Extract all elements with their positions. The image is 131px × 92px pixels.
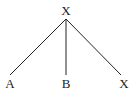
edge-root-to-a: [10, 19, 66, 75]
node-root: X: [61, 3, 71, 18]
tree-diagram: X A B X: [0, 0, 131, 92]
node-child-a: A: [5, 76, 15, 91]
edge-root-to-x: [66, 19, 121, 75]
node-child-b: B: [62, 76, 71, 91]
node-child-x: X: [119, 76, 129, 91]
